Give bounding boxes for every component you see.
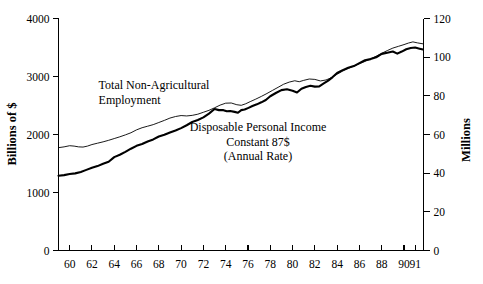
right-tick-label-120: 120 — [434, 13, 452, 25]
right-tick-label-0: 0 — [434, 245, 440, 257]
left-tick-label-3000: 3000 — [27, 71, 50, 83]
right-tick-label-20: 20 — [434, 206, 446, 218]
chart-container: 01000200030004000 020406080100120 606264… — [0, 0, 483, 284]
left-axis-ticks — [53, 19, 59, 251]
line-chart: 01000200030004000 020406080100120 606264… — [0, 0, 483, 284]
x-axis-tick-labels: 6062646668707274767880828486889091 — [64, 258, 421, 270]
x-tick-label-68: 68 — [153, 258, 165, 270]
income-label-line-3: (Annual Rate) — [224, 149, 292, 163]
x-tick-label-70: 70 — [175, 258, 187, 270]
right-tick-label-80: 80 — [434, 90, 446, 102]
x-tick-label-80: 80 — [287, 258, 299, 270]
x-tick-label-84: 84 — [331, 258, 343, 270]
right-tick-label-40: 40 — [434, 167, 446, 179]
right-axis-title: Millions — [459, 118, 473, 162]
x-tick-label-62: 62 — [86, 258, 98, 270]
left-axis-tick-labels: 01000200030004000 — [27, 13, 50, 257]
right-tick-label-100: 100 — [434, 51, 452, 63]
right-axis-tick-labels: 020406080100120 — [434, 13, 452, 257]
income-label-line-2: Constant 87$ — [226, 135, 290, 149]
x-tick-label-90: 90 — [398, 258, 410, 270]
x-tick-label-78: 78 — [265, 258, 277, 270]
left-tick-label-1000: 1000 — [27, 187, 50, 199]
x-tick-label-91: 91 — [409, 258, 421, 270]
x-tick-label-76: 76 — [242, 258, 254, 270]
income-label-line-1: Disposable Personal Income — [190, 120, 327, 134]
left-axis-title: Billions of $ — [5, 102, 19, 165]
x-tick-label-86: 86 — [354, 258, 366, 270]
x-tick-label-88: 88 — [376, 258, 388, 270]
employment-label-line-2: Employment — [99, 93, 162, 107]
left-tick-label-0: 0 — [44, 245, 50, 257]
employment-label-line-1: Total Non-Agricultural — [99, 78, 210, 92]
x-tick-label-64: 64 — [108, 258, 120, 270]
left-tick-label-2000: 2000 — [27, 129, 50, 141]
x-axis-ticks — [70, 245, 415, 251]
x-tick-label-72: 72 — [198, 258, 210, 270]
x-tick-label-66: 66 — [131, 258, 143, 270]
x-tick-label-74: 74 — [220, 258, 232, 270]
right-tick-label-60: 60 — [434, 129, 446, 141]
left-tick-label-4000: 4000 — [27, 13, 50, 25]
right-axis-ticks — [424, 19, 430, 251]
x-tick-label-60: 60 — [64, 258, 76, 270]
x-tick-label-82: 82 — [309, 258, 321, 270]
